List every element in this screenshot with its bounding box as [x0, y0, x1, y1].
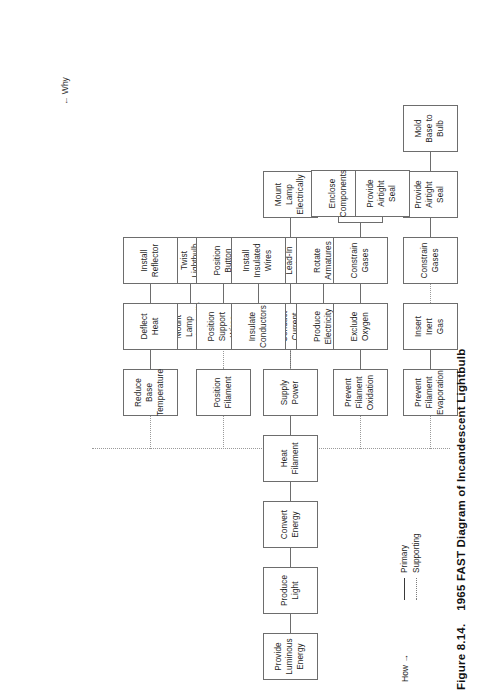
legend-label-primary: Primary: [400, 545, 409, 573]
support-stub-prevent-filament-oxidation: [360, 416, 361, 449]
figure-caption-number: Figure 8.14.: [455, 624, 467, 690]
node-insulate-conductors[interactable]: Insulate Conductors: [231, 303, 286, 350]
node-constrain-gases-upper[interactable]: Constrain Gases: [333, 237, 388, 284]
figure-caption: Figure 8.14. 1965 FAST Diagram of Incand…: [455, 349, 467, 690]
edge-heat-filament-to-supply-power: [290, 416, 291, 435]
node-mount-lamp-electrically[interactable]: Mount Lamp Electrically: [263, 171, 318, 218]
node-prevent-filament-evaporation[interactable]: Prevent Filament Evaporation: [403, 369, 458, 416]
node-produce-light[interactable]: Produce Light: [263, 567, 318, 614]
edge-to-enclose-components: [338, 217, 339, 223]
support-edge-insert-inert-gas-to-constrain-gases: [430, 284, 431, 303]
node-deflect-heat[interactable]: Deflect Heat: [123, 303, 178, 350]
support-trunk-heat-filament-up: [92, 448, 290, 449]
legend-label-supporting: Supporting: [412, 533, 421, 573]
edge-to-provide-airtight-seal-top: [382, 217, 383, 223]
edge-produce-electricity-to-rotate-armatures: [323, 284, 324, 303]
legend-swatch-primary: [404, 578, 405, 600]
edge-insulate-conductors-to-install-insulated-wires: [258, 284, 259, 303]
node-heat-filament[interactable]: Heat Filament: [263, 435, 318, 482]
edge-provide-luminous-to-produce-light: [290, 614, 291, 633]
node-mold-base-to-bulb[interactable]: Mold Base to Bulb: [403, 105, 458, 152]
node-install-insulated-wires[interactable]: Install Insulated Wires: [231, 237, 286, 284]
node-exclude-oxygen[interactable]: Exclude Oxygen: [333, 303, 388, 350]
edge-position-support-wires-to-position-button: [223, 284, 224, 303]
node-position-filament[interactable]: Position Filament: [196, 369, 251, 416]
legend: Primary Supporting: [400, 533, 424, 600]
edge-connect-lead-in-to-mount-lamp-electrically: [290, 218, 291, 237]
support-stub-position-filament: [223, 416, 224, 449]
edge-produce-light-to-convert-energy: [290, 548, 291, 567]
edge-deflect-heat-to-install-reflector: [150, 284, 151, 303]
legend-row-primary: Primary: [400, 533, 409, 600]
edge-convert-energy-to-heat-filament: [290, 482, 291, 501]
edge-constrain-gases-upper-fanout: [360, 223, 361, 237]
edge-exclude-oxygen-to-constrain-gases-upper: [360, 284, 361, 303]
support-edge-supply-power-to-insulate-conductors: [290, 350, 291, 369]
node-provide-airtight-seal-top[interactable]: Provide Airtight Seal: [355, 170, 410, 217]
node-prevent-filament-oxidation[interactable]: Prevent Filament Oxidation: [333, 369, 388, 416]
node-constrain-gases-lower[interactable]: Constrain Gases: [403, 237, 458, 284]
legend-swatch-supporting: [416, 578, 417, 600]
edge-constrain-gases-lower-to-provide-seal: [430, 218, 431, 237]
axis-label-why: ← Why: [60, 77, 70, 105]
edge-prevent-oxidation-to-exclude-oxygen: [360, 350, 361, 369]
node-provide-luminous-energy[interactable]: Provide Luminous Energy: [263, 633, 318, 680]
node-supply-power[interactable]: Supply Power: [263, 369, 318, 416]
node-convert-energy[interactable]: Convert Energy: [263, 501, 318, 548]
edge-prevent-evaporation-to-insert-inert-gas: [430, 350, 431, 369]
fast-diagram-canvas: Provide Luminous Energy Produce Light Co…: [0, 0, 490, 700]
edge-conduct-current-to-connect-lead-in: [290, 284, 291, 303]
node-insert-inert-gas[interactable]: Insert Inert Gas: [403, 303, 458, 350]
figure-caption-text: 1965 FAST Diagram of Incandescent Lightb…: [455, 349, 467, 611]
node-reduce-base-temperature[interactable]: Reduce Base Temperature: [123, 369, 178, 416]
edge-provide-seal-to-mold-base: [430, 152, 431, 171]
support-stub-reduce-base-temperature: [150, 416, 151, 449]
legend-row-supporting: Supporting: [412, 533, 421, 600]
edge-mount-lamp-mech-to-twist-lightbulb: [190, 284, 191, 303]
edge-reduce-base-to-deflect-heat: [150, 350, 151, 369]
node-install-reflector[interactable]: Install Reflector: [123, 237, 178, 284]
axis-label-how: How →: [400, 654, 410, 682]
node-provide-airtight-seal-right[interactable]: Provide Airtight Seal: [403, 171, 458, 218]
support-stub-prevent-filament-evaporation: [430, 416, 431, 449]
figure-page: Provide Luminous Energy Produce Light Co…: [0, 0, 490, 700]
edge-constrain-gases-upper-riser: [338, 222, 382, 223]
